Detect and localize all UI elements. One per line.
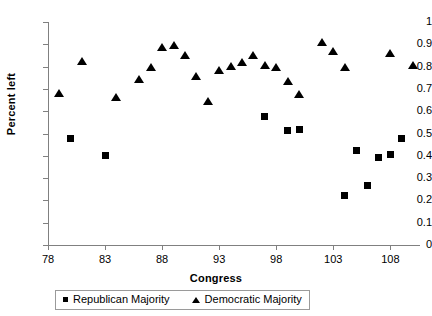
data-point-democratic bbox=[248, 51, 258, 59]
data-point-democratic bbox=[226, 62, 236, 70]
x-axis-tick-label: 108 bbox=[370, 253, 410, 265]
data-point-democratic bbox=[180, 51, 190, 59]
data-point-democratic bbox=[54, 89, 64, 97]
data-point-democratic bbox=[111, 93, 121, 101]
x-axis-tick bbox=[105, 245, 106, 250]
x-axis-tick bbox=[276, 245, 277, 250]
data-point-democratic bbox=[283, 77, 293, 85]
data-point-democratic bbox=[340, 63, 350, 71]
triangle-marker-icon bbox=[192, 297, 200, 303]
data-point-democratic bbox=[191, 72, 201, 80]
data-point-republican bbox=[284, 127, 291, 134]
data-point-democratic bbox=[408, 61, 418, 69]
data-point-republican bbox=[364, 182, 371, 189]
data-point-democratic bbox=[260, 61, 270, 69]
legend-label-republican: Republican Majority bbox=[73, 293, 170, 306]
legend-item-republican: Republican Majority bbox=[63, 293, 170, 306]
data-point-republican bbox=[102, 152, 109, 159]
data-point-democratic bbox=[169, 41, 179, 49]
data-point-democratic bbox=[77, 57, 87, 65]
x-axis-tick bbox=[390, 245, 391, 250]
x-axis-tick bbox=[219, 245, 220, 250]
x-axis-line bbox=[48, 245, 420, 246]
data-point-democratic bbox=[146, 63, 156, 71]
x-axis-tick bbox=[333, 245, 334, 250]
x-axis-tick-label: 83 bbox=[85, 253, 125, 265]
data-point-democratic bbox=[385, 49, 395, 57]
data-point-democratic bbox=[203, 97, 213, 105]
x-axis-tick-label: 93 bbox=[199, 253, 239, 265]
y-axis-title: Percent left bbox=[5, 59, 17, 149]
square-marker-icon bbox=[63, 297, 68, 302]
data-point-republican bbox=[353, 147, 360, 154]
scatter-chart: 00.10.20.30.40.50.60.70.80.91 7883889398… bbox=[0, 0, 432, 316]
data-point-republican bbox=[261, 113, 268, 120]
data-point-republican bbox=[341, 192, 348, 199]
data-point-democratic bbox=[214, 66, 224, 74]
x-axis-tick-label: 88 bbox=[142, 253, 182, 265]
legend-label-democratic: Democratic Majority bbox=[205, 293, 302, 306]
data-point-democratic bbox=[134, 75, 144, 83]
data-point-democratic bbox=[328, 47, 338, 55]
x-axis-tick-label: 98 bbox=[256, 253, 296, 265]
data-point-democratic bbox=[237, 58, 247, 66]
x-axis-tick-label: 103 bbox=[313, 253, 353, 265]
data-point-democratic bbox=[294, 90, 304, 98]
x-axis-title: Congress bbox=[0, 272, 432, 284]
data-point-republican bbox=[67, 135, 74, 142]
data-point-republican bbox=[387, 151, 394, 158]
x-axis-tick bbox=[48, 245, 49, 250]
chart-legend: Republican Majority Democratic Majority bbox=[55, 290, 310, 310]
plot-area bbox=[48, 22, 420, 245]
data-point-republican bbox=[296, 126, 303, 133]
data-point-republican bbox=[398, 135, 405, 142]
x-axis-tick-label: 78 bbox=[28, 253, 68, 265]
legend-item-democratic: Democratic Majority bbox=[192, 293, 302, 306]
data-point-democratic bbox=[157, 43, 167, 51]
data-point-democratic bbox=[317, 38, 327, 46]
data-point-republican bbox=[375, 154, 382, 161]
x-axis-tick bbox=[162, 245, 163, 250]
data-point-democratic bbox=[271, 63, 281, 71]
